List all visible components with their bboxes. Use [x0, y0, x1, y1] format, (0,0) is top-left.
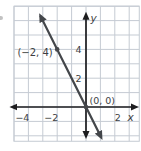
data-point — [84, 105, 89, 110]
x-tick-label: −4 — [15, 112, 29, 123]
graph-svg: (−2, 4)(0, 0)−4−2224xy — [0, 0, 141, 151]
x-tick-label: 2 — [115, 112, 121, 123]
point-label: (0, 0) — [90, 95, 116, 106]
y-axis-label: y — [90, 12, 98, 24]
x-axis-label: x — [127, 111, 135, 123]
y-tick-label: 2 — [75, 73, 81, 84]
y-tick-label: 4 — [75, 44, 81, 55]
data-point — [55, 47, 60, 52]
point-label: (−2, 4) — [17, 47, 52, 58]
x-tick-label: −2 — [44, 112, 58, 123]
coordinate-graph: (−2, 4)(0, 0)−4−2224xy — [0, 0, 141, 151]
